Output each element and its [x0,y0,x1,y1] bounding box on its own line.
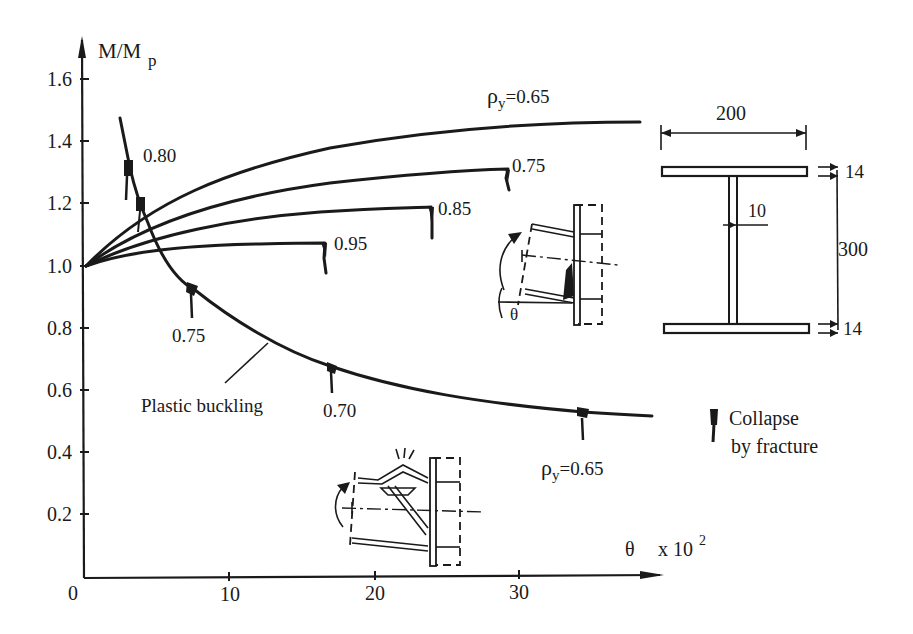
svg-text:2: 2 [699,533,706,548]
top-flange [662,167,807,176]
x-axis-arrow-icon [640,571,664,579]
svg-text:M/M: M/M [98,39,142,63]
legend-fracture-icon [710,409,718,442]
y-axis-arrow-icon [78,36,86,58]
detail-theta-label: θ [510,305,518,324]
label-095: 0.95 [334,233,367,254]
label-plastic-buckling: Plastic buckling [141,395,263,416]
label-rho-065-top: ρy=0.65 [487,83,549,111]
svg-text:θ: θ [625,538,635,560]
x-tick-labels: 0 10 20 30 [68,581,529,605]
svg-text:p: p [148,51,157,70]
y-tick-label: 0.2 [47,503,72,525]
svg-text:x 10: x 10 [658,538,693,560]
origin-label: 0 [68,582,78,604]
y-tick-label: 0.6 [47,379,72,401]
legend: Collapse by fracture [710,407,818,458]
y-axis [78,36,89,578]
detail-buckling-sketch [336,448,486,566]
label-075: 0.75 [512,155,545,176]
label-b080: 0.80 [143,145,176,166]
y-tick-label: 1.6 [47,68,72,90]
x-tick-label: 10 [220,583,240,605]
curve-labels: ρy=0.65 0.75 0.85 0.95 0.80 0.75 0.70 ρy… [141,83,603,483]
dim-flange-bottom: 14 [843,318,863,339]
fracture-marker-icon [327,362,337,393]
label-b070: 0.70 [323,400,356,421]
y-tick-label: 0.8 [47,317,72,339]
x-tick-label: 20 [365,582,385,604]
label-b075: 0.75 [172,325,205,346]
web [729,176,737,324]
fracture-marker-icon [577,407,589,440]
plastic-buckling-pointer [225,343,268,383]
detail-fracture-sketch: θ [498,205,618,325]
y-tick-label: 1.0 [47,255,72,277]
dim-flange-top: 14 [845,161,865,182]
y-tick-label: 1.4 [47,130,72,152]
dim-width: 200 [716,102,746,124]
x-axis-title: θ x 10 2 [625,533,706,560]
chart-canvas: 1.6 1.4 1.2 1.0 0.8 0.6 0.4 0.2 0 10 20 … [0,0,913,634]
bottom-flange [664,324,809,333]
x-tick-label: 30 [509,581,529,603]
x-axis [84,570,664,581]
y-tick-label: 1.2 [47,192,72,214]
dim-depth: 300 [838,238,868,260]
series-rho-095 [86,242,327,273]
fracture-marker-icon [186,282,198,318]
y-tick-labels: 1.6 1.4 1.2 1.0 0.8 0.6 0.4 0.2 [47,68,72,525]
legend-text-line2: by fracture [731,435,818,458]
y-tick-label: 0.4 [47,441,72,463]
legend-text-line1: Collapse [729,407,799,430]
dim-web-thickness: 10 [748,201,766,221]
label-rho-065-bottom: ρy=0.65 [541,455,603,483]
y-axis-title: M/M p [98,39,157,70]
label-085: 0.85 [438,198,471,219]
i-beam-cross-section: 200 10 300 14 14 [661,102,868,339]
